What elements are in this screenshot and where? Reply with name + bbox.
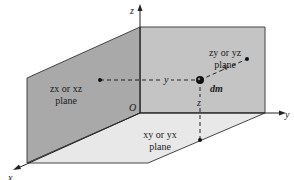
x-axis-arrowhead: [13, 165, 21, 171]
z-axis-label: z: [129, 5, 134, 16]
zy-projection-point: [245, 57, 249, 61]
dm-label: dm: [210, 83, 223, 94]
mass-element-dm: [196, 76, 204, 84]
xy-plane-label-line2: plane: [149, 141, 171, 152]
y-distance-label: y: [163, 74, 169, 85]
y-axis-label: y: [284, 109, 290, 120]
zx-plane-label-line2: plane: [55, 95, 77, 106]
origin-label: O: [129, 102, 136, 113]
xy-plane-label-line1: xy or yx: [143, 129, 176, 140]
x-axis-label: x: [7, 172, 13, 180]
x-distance-label: x: [222, 61, 228, 72]
z-distance-label: z: [196, 97, 201, 108]
xy-projection-point: [198, 138, 202, 142]
coordinate-planes-diagram: z y x O zy or yz plane zx or xz plane xy…: [0, 0, 294, 180]
zx-projection-point: [98, 78, 102, 82]
zx-plane-label-line1: zx or xz: [50, 83, 83, 94]
zy-plane-label-line1: zy or yz: [209, 47, 242, 58]
z-axis-arrowhead: [138, 4, 143, 11]
mass-element-highlight: [198, 78, 200, 80]
